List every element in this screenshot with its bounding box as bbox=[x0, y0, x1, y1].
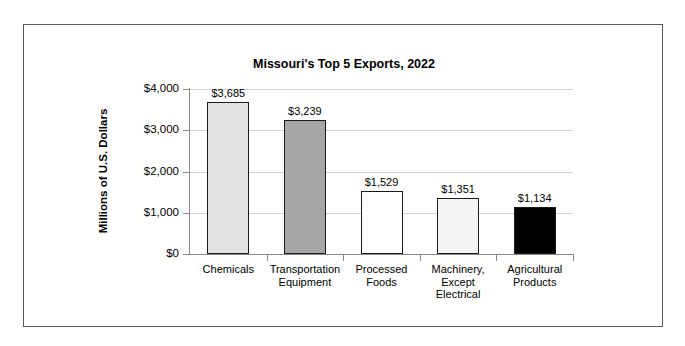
y-axis-tick-label: $4,000 bbox=[123, 82, 179, 94]
x-axis-separator-tick bbox=[420, 254, 421, 261]
y-axis-tick-label: $0 bbox=[123, 247, 179, 259]
x-axis-line bbox=[190, 254, 573, 255]
x-axis-category-label-line: Transportation bbox=[261, 263, 350, 276]
bar-value-label: $1,529 bbox=[349, 176, 415, 188]
chart-frame: Missouri's Top 5 Exports, 2022 Millions … bbox=[23, 24, 663, 327]
bar bbox=[514, 207, 556, 254]
y-axis-tick-label: $3,000 bbox=[123, 123, 179, 135]
x-axis-category-label-line: Except bbox=[414, 276, 503, 289]
y-axis-tick-label: $2,000 bbox=[123, 165, 179, 177]
bar bbox=[284, 120, 326, 254]
x-axis-separator-tick bbox=[343, 254, 344, 261]
bar-value-label: $1,134 bbox=[502, 192, 568, 204]
x-axis-category-label-line: Foods bbox=[337, 276, 426, 289]
x-axis-separator-tick bbox=[267, 254, 268, 261]
bar bbox=[437, 198, 479, 254]
bar bbox=[207, 102, 249, 254]
x-axis-category-label-line: Electrical bbox=[414, 288, 503, 301]
x-axis-category-label-line: Agricultural bbox=[490, 263, 579, 276]
bar-value-label: $3,239 bbox=[272, 105, 338, 117]
x-axis-category-label-line: Chemicals bbox=[184, 263, 273, 276]
x-axis-category-label-line: Machinery, bbox=[414, 263, 503, 276]
y-axis-title: Millions of U.S. Dollars bbox=[97, 86, 109, 256]
x-axis-category-label: AgriculturalProducts bbox=[490, 263, 579, 288]
x-axis-category-label: Machinery,ExceptElectrical bbox=[414, 263, 503, 301]
x-axis-category-label-line: Equipment bbox=[261, 276, 350, 289]
x-axis-category-label: ProcessedFoods bbox=[337, 263, 426, 288]
bar-value-label: $1,351 bbox=[425, 183, 491, 195]
y-axis-tick-label: $1,000 bbox=[123, 206, 179, 218]
x-axis-category-label: TransportationEquipment bbox=[261, 263, 350, 288]
plot-area: $3,685$3,239$1,529$1,351$1,134 bbox=[190, 89, 573, 254]
bar bbox=[361, 191, 403, 254]
x-axis-category-label-line: Processed bbox=[337, 263, 426, 276]
x-axis-separator-tick bbox=[496, 254, 497, 261]
bar-value-label: $3,685 bbox=[195, 87, 261, 99]
x-axis-separator-tick bbox=[573, 254, 574, 261]
chart-title: Missouri's Top 5 Exports, 2022 bbox=[24, 57, 664, 71]
x-axis-category-label-line: Products bbox=[490, 276, 579, 289]
x-axis-category-label: Chemicals bbox=[184, 263, 273, 276]
